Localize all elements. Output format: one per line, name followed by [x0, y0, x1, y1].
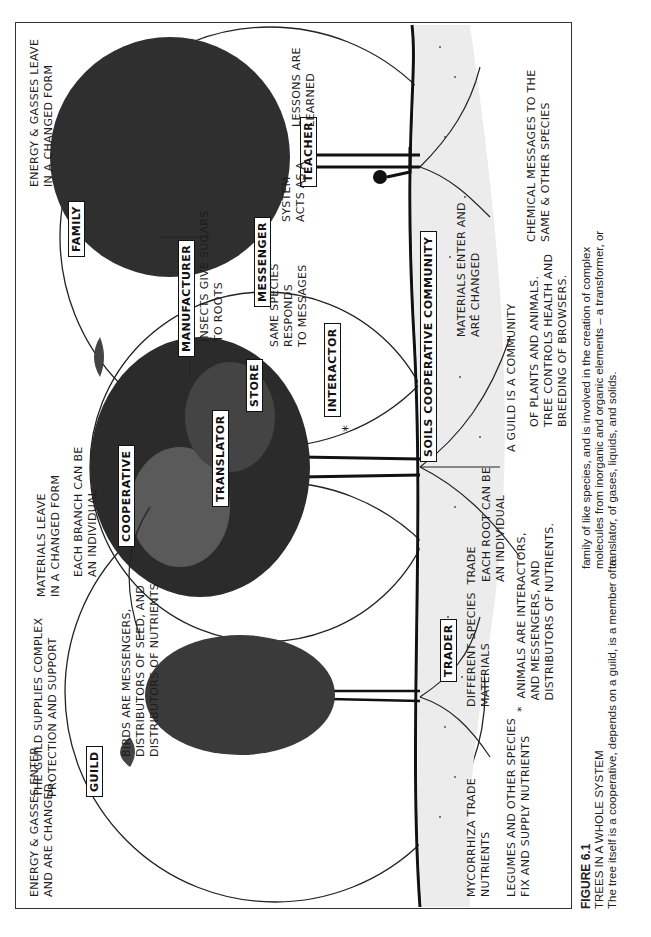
note-plants-animals: OF PLANTS AND ANIMALS. TREE CONTROLS HEA…: [528, 254, 570, 427]
guild-label: GUILD: [86, 746, 103, 797]
note-lessons: LESSONS ARE LEARNED: [290, 47, 318, 127]
note-energy-leave: ENERGY & GASSES LEAVE IN A CHANGED FORM: [28, 39, 56, 187]
figure-canvas: GUILD FAMILY COOPERATIVE TRANSLATOR STOR…: [0, 0, 651, 937]
note-materials-enter: MATERIALS ENTER AND ARE CHANGED: [455, 202, 483, 337]
cooperative-label: COOPERATIVE: [118, 445, 135, 547]
family-label: FAMILY: [68, 201, 85, 257]
figure-title: TREES IN A WHOLE SYSTEM: [593, 560, 606, 909]
note-same-species: SAME SPECIES RESPONDS TO MESSAGES: [268, 263, 310, 347]
note-guild-community: A GUILD IS A COMMUNITY: [505, 303, 519, 452]
note-system-teacher: SYSTEM ACTS AS A: [280, 162, 308, 222]
note-insects: INSECTS GIVE SUGARS TO ROOTS: [198, 211, 226, 342]
soils-community-label: SOILS COOPERATIVE COMMUNITY: [420, 231, 437, 462]
note-each-branch: EACH BRANCH CAN BE AN INDIVIDUAL: [72, 446, 100, 577]
caption-line-left: The tree itself is a cooperative, depend…: [606, 560, 619, 909]
left-tree-trunk: [330, 691, 420, 701]
note-each-root: EACH ROOT CAN BE AN INDIVIDUAL: [480, 467, 508, 582]
manufacturer-label: MANUFACTURER: [178, 240, 195, 357]
store-label: STORE: [246, 359, 263, 412]
left-tree-canopy: [145, 635, 335, 755]
figure-number: FIGURE 6.1: [580, 560, 593, 909]
caption-line: molecules from inorganic and organic ele…: [593, 231, 606, 569]
note-animals: * ANIMALS ARE INTERACTORS, AND MESSENGER…: [515, 523, 557, 712]
note-legumes: LEGUMES AND OTHER SPECIES FIX AND SUPPLY…: [505, 718, 533, 897]
caption-line: translator, of gases, liquids, and solid…: [606, 231, 619, 569]
interactor-label: INTERACTOR: [324, 323, 341, 417]
translator-label: TRANSLATOR: [212, 410, 229, 507]
insect-icon: [94, 337, 104, 377]
note-chemical-messages: CHEMICAL MESSAGES TO THE SAME & OTHER SP…: [525, 70, 553, 242]
note-mycorrhiza: MYCORRHIZA TRADE NUTRIENTS: [465, 778, 493, 897]
central-tree-trunk: [300, 457, 420, 477]
caption-line: family of like species, and is involved …: [580, 231, 593, 569]
trader-label: TRADER: [440, 619, 457, 682]
note-guild-supplies: THE GUILD SUPPLIES COMPLEX PROTECTION AN…: [32, 618, 60, 797]
note-materials-leave: MATERIALS LEAVE IN A CHANGED FORM: [35, 475, 63, 597]
interactor-asterisk: *: [340, 425, 354, 432]
right-tree-trunk: [300, 155, 420, 167]
note-birds: BIRDS ARE MESSENGERS, DISTRIBUTORS OF SE…: [120, 583, 162, 757]
